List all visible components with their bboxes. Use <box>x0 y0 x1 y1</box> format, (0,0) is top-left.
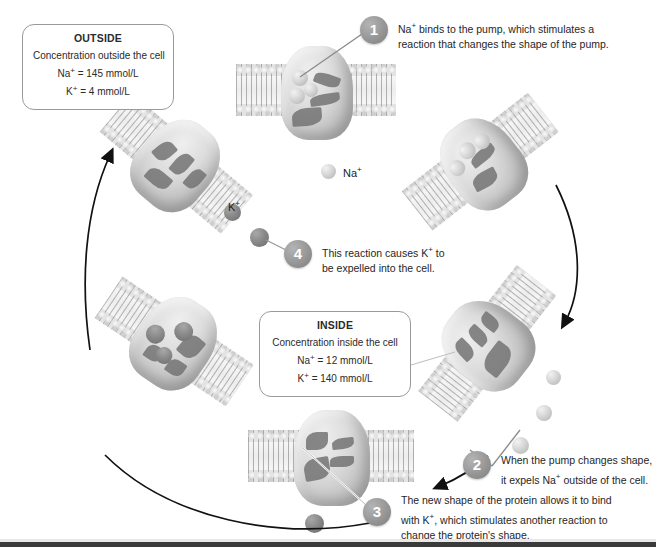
outside-box-na-line: Na+ = 145 mmol/L <box>33 63 163 81</box>
step-2-text: When the pump changes shape, it expels N… <box>501 453 652 488</box>
step-2-line-1: When the pump changes shape, <box>501 453 652 469</box>
inside-na-superscript: + <box>310 353 315 362</box>
inside-box-title: INSIDE <box>270 319 400 331</box>
outside-na-value: = 145 mmol/L <box>78 68 139 79</box>
outside-na-superscript: + <box>70 66 75 75</box>
outside-na-label: Na <box>57 68 70 79</box>
outside-k-value: = 4 mmol/L <box>80 87 130 98</box>
step-2-number: 2 <box>463 451 491 479</box>
inside-box-subtitle: Concentration inside the cell <box>270 335 400 350</box>
inside-box-na-line: Na+ = 12 mmol/L <box>270 350 400 368</box>
legend-potassium: K+ <box>228 199 240 213</box>
inside-box-k-line: K+ = 140 mmol/L <box>270 368 400 386</box>
legend-sodium: Na+ <box>321 164 362 179</box>
outside-box-k-line: K+ = 4 mmol/L <box>33 81 163 99</box>
protein-cleft <box>330 456 354 467</box>
step-4-line-1: This reaction causes K+ to <box>322 242 445 261</box>
step-4-text: This reaction causes K+ to be expelled i… <box>322 242 445 277</box>
sodium-ion-swatch <box>321 164 336 179</box>
sodium-ion-bound <box>289 88 305 104</box>
sodium-ion-free <box>546 370 561 385</box>
step-1-text: Na+ binds to the pump, which stimulates … <box>398 18 609 53</box>
sodium-ion-free <box>512 437 529 454</box>
step-3-text: The new shape of the protein allows it t… <box>401 493 612 543</box>
legend-sodium-label: Na+ <box>343 165 362 179</box>
step-1-line-2: reaction that changes the shape of the p… <box>398 37 609 53</box>
sodium-ion-free <box>536 405 552 421</box>
potassium-ion-free <box>305 514 324 533</box>
bottom-divider-dark <box>0 542 656 547</box>
inside-na-label: Na <box>297 355 310 366</box>
inside-k-superscript: + <box>304 371 309 380</box>
leader-line-step4 <box>266 240 286 250</box>
pump-protein-right-upper <box>391 78 574 249</box>
potassium-ion-free <box>250 228 269 247</box>
sodium-ion-bound <box>304 83 318 97</box>
step-4-line-2: be expelled into the cell. <box>322 261 445 277</box>
outside-k-superscript: + <box>73 84 78 93</box>
step-3-line-2: with K+, which stimulates another reacti… <box>401 509 612 528</box>
step-3-number: 3 <box>363 498 391 526</box>
inside-concentration-box: INSIDE Concentration inside the cell Na+… <box>259 311 411 397</box>
pump-protein-step3 <box>248 414 414 506</box>
outside-box-title: OUTSIDE <box>33 32 163 44</box>
legend-potassium-label: K+ <box>228 199 240 213</box>
step-1-number: 1 <box>360 16 388 44</box>
inside-k-value: = 140 mmol/L <box>312 374 373 385</box>
step-4-number: 4 <box>284 240 312 268</box>
pump-protein-step1 <box>236 52 396 132</box>
sodium-potassium-pump-diagram: OUTSIDE Concentration outside the cell N… <box>0 0 656 547</box>
protein-cleft <box>306 432 328 450</box>
step-1-line-1: Na+ binds to the pump, which stimulates … <box>398 18 609 37</box>
pump-protein-left-lower <box>81 260 265 426</box>
step-3-line-1: The new shape of the protein allows it t… <box>401 493 612 509</box>
step-2-line-2: it expels Na+ outside of the cell. <box>501 469 652 488</box>
outside-box-subtitle: Concentration outside the cell <box>33 48 163 63</box>
inside-na-value: = 12 mmol/L <box>317 355 372 366</box>
outside-concentration-box: OUTSIDE Concentration outside the cell N… <box>22 24 174 110</box>
outside-k-label: K <box>66 87 73 98</box>
